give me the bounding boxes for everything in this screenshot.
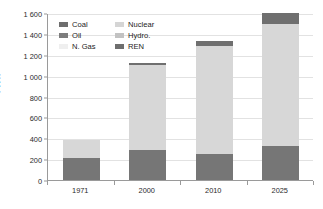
- bar-stack[interactable]: [262, 13, 299, 180]
- bar-segment-fossil[interactable]: [196, 154, 233, 180]
- bar-stack[interactable]: [196, 13, 233, 180]
- y-tick-label: 1 000: [8, 72, 42, 81]
- legend-swatch-icon: [59, 44, 68, 49]
- y-axis-title: TWh: [0, 73, 2, 94]
- x-tick-mark: [180, 181, 181, 185]
- y-tick-label: 1 600: [8, 10, 42, 19]
- bar-segment-nuclear-hydro[interactable]: [262, 24, 299, 145]
- bar-segment-ren[interactable]: [196, 41, 233, 46]
- legend-item[interactable]: Coal: [59, 21, 115, 29]
- y-tick-label: 1 200: [8, 51, 42, 60]
- x-tick-label: 2025: [272, 186, 288, 195]
- y-tick-label: 800: [8, 93, 42, 102]
- x-tick-mark: [114, 181, 115, 185]
- bar-segment-ren[interactable]: [129, 63, 166, 65]
- y-tick-label: 600: [8, 114, 42, 123]
- x-tick-mark: [47, 181, 48, 185]
- y-tick-label: 200: [8, 156, 42, 165]
- bar-segment-nuclear-hydro[interactable]: [129, 65, 166, 151]
- chart-legend: CoalNuclearOilHydro.N. GasREN: [59, 19, 175, 52]
- bar-segment-fossil[interactable]: [129, 150, 166, 180]
- legend-label: REN: [128, 43, 144, 51]
- x-tick-mark: [247, 181, 248, 185]
- legend-item[interactable]: N. Gas: [59, 43, 115, 51]
- legend-label: Coal: [72, 21, 88, 29]
- y-tick-label: 1 400: [8, 30, 42, 39]
- legend-label: Hydro.: [128, 32, 150, 40]
- legend-label: N. Gas: [72, 43, 96, 51]
- bar-segment-fossil[interactable]: [262, 146, 299, 180]
- legend-item[interactable]: Nuclear: [115, 21, 175, 29]
- bar-segment-nuclear-hydro[interactable]: [63, 140, 100, 158]
- legend-label: Oil: [72, 32, 81, 40]
- legend-item[interactable]: REN: [115, 43, 175, 51]
- x-tick-label: 2010: [205, 186, 221, 195]
- bar-segment-nuclear-hydro[interactable]: [196, 46, 233, 154]
- legend-swatch-icon: [115, 22, 124, 27]
- legend-swatch-icon: [115, 33, 124, 38]
- legend-item[interactable]: Hydro.: [115, 32, 175, 40]
- y-tick-label: 0: [8, 177, 42, 186]
- stacked-bar-chart: TWh 02004006008001 0001 2001 4001 600 19…: [0, 0, 323, 209]
- x-tick-label: 1971: [72, 186, 88, 195]
- x-tick-mark: [313, 181, 314, 185]
- x-tick-label: 2000: [139, 186, 155, 195]
- legend-item[interactable]: Oil: [59, 32, 115, 40]
- legend-swatch-icon: [59, 33, 68, 38]
- legend-swatch-icon: [115, 44, 124, 49]
- legend-swatch-icon: [59, 22, 68, 27]
- y-tick-label: 400: [8, 135, 42, 144]
- bar-segment-ren[interactable]: [262, 13, 299, 24]
- legend-label: Nuclear: [128, 21, 154, 29]
- bar-segment-fossil[interactable]: [63, 158, 100, 180]
